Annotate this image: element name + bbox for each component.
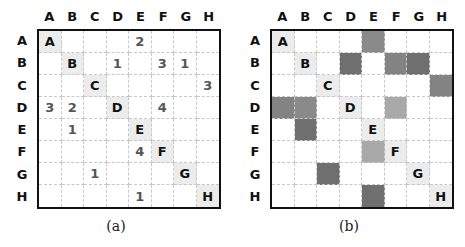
- matrix-cell: [174, 75, 197, 97]
- matrix-cell: [174, 31, 197, 53]
- caption-a: (a): [0, 218, 232, 234]
- panel-b: ABCDEFGH ABCDEFGH ABCDEFGH (b): [233, 0, 465, 247]
- panel-a: ABCDEFGH ABCDEFGH A2B131C332D41E4F1G1H (…: [0, 0, 232, 247]
- matrix-cell: [129, 163, 152, 185]
- matrix-cell: [174, 141, 197, 163]
- matrix-cell: H: [430, 185, 453, 207]
- matrix-cell: A: [39, 31, 62, 53]
- matrix-cell: [407, 31, 430, 53]
- matrix-cell: H: [197, 185, 220, 207]
- matrix-cell: [197, 31, 220, 53]
- matrix-grid-a: A2B131C332D41E4F1G1H: [37, 29, 221, 209]
- matrix-cell: [430, 75, 453, 97]
- row-label: C: [245, 75, 265, 98]
- matrix-cell: [197, 53, 220, 75]
- column-label: F: [385, 8, 408, 26]
- matrix-cell: [430, 97, 453, 119]
- matrix-cell: [174, 119, 197, 141]
- matrix-cell: [272, 185, 295, 207]
- matrix-cell: [272, 163, 295, 185]
- column-label: E: [129, 8, 152, 26]
- matrix-cell: E: [362, 119, 385, 141]
- matrix-cell: [407, 119, 430, 141]
- matrix-cell: [362, 97, 385, 119]
- matrix-cell: [107, 185, 130, 207]
- matrix-cell: [174, 97, 197, 119]
- column-label: B: [61, 8, 84, 26]
- matrix-cell: 1: [84, 163, 107, 185]
- matrix-cell: [152, 75, 175, 97]
- column-label: G: [175, 8, 198, 26]
- matrix-cell: [39, 163, 62, 185]
- matrix-cell: [62, 31, 85, 53]
- column-label: A: [38, 8, 61, 26]
- matrix-cell: [295, 163, 318, 185]
- matrix-cell: [39, 75, 62, 97]
- column-label: D: [106, 8, 129, 26]
- matrix-cell: [317, 185, 340, 207]
- column-label: G: [408, 8, 431, 26]
- matrix-cell: [39, 185, 62, 207]
- matrix-cell: [84, 185, 107, 207]
- matrix-cell: F: [152, 141, 175, 163]
- matrix-cell: [430, 53, 453, 75]
- matrix-cell: 3: [39, 97, 62, 119]
- matrix-cell: [340, 53, 363, 75]
- matrix-cell: [362, 163, 385, 185]
- matrix-cell: [407, 75, 430, 97]
- column-label: D: [339, 8, 362, 26]
- matrix-cell: [197, 119, 220, 141]
- matrix-cell: 3: [152, 53, 175, 75]
- matrix-cell: [295, 141, 318, 163]
- row-label: E: [12, 119, 32, 142]
- matrix-cell: 2: [62, 97, 85, 119]
- matrix-cell: [152, 163, 175, 185]
- matrix-cell: [295, 119, 318, 141]
- matrix-cell: [39, 119, 62, 141]
- matrix-cell: [362, 141, 385, 163]
- column-label: B: [294, 8, 317, 26]
- column-label: F: [152, 8, 175, 26]
- matrix-cell: [317, 119, 340, 141]
- matrix-grid-b: ABCDEFGH: [270, 29, 454, 209]
- matrix-cell: [62, 75, 85, 97]
- matrix-cell: [430, 119, 453, 141]
- matrix-cell: [174, 185, 197, 207]
- matrix-cell: [362, 31, 385, 53]
- matrix-cell: [385, 31, 408, 53]
- matrix-cell: [385, 53, 408, 75]
- matrix-cell: [84, 97, 107, 119]
- matrix-cell: [385, 75, 408, 97]
- row-label: G: [245, 164, 265, 187]
- matrix-cell: [107, 31, 130, 53]
- matrix-cell: F: [385, 141, 408, 163]
- matrix-cell: [362, 53, 385, 75]
- matrix-cell: [272, 53, 295, 75]
- row-label: B: [245, 52, 265, 75]
- matrix-cell: [362, 185, 385, 207]
- matrix-cell: [197, 141, 220, 163]
- row-label: H: [245, 186, 265, 209]
- matrix-cell: [407, 53, 430, 75]
- row-label: A: [12, 30, 32, 53]
- matrix-cell: [39, 53, 62, 75]
- matrix-cell: [385, 97, 408, 119]
- matrix-cell: [295, 75, 318, 97]
- row-label: F: [245, 141, 265, 164]
- caption-b: (b): [233, 218, 465, 234]
- matrix-cell: 3: [197, 75, 220, 97]
- row-label: G: [12, 164, 32, 187]
- matrix-cell: [62, 163, 85, 185]
- matrix-cell: [430, 163, 453, 185]
- matrix-cell: [84, 141, 107, 163]
- matrix-cell: [362, 75, 385, 97]
- matrix-cell: [430, 141, 453, 163]
- row-label: E: [245, 119, 265, 142]
- row-label: D: [245, 97, 265, 120]
- matrix-cell: [340, 31, 363, 53]
- column-label: E: [362, 8, 385, 26]
- matrix-cell: [317, 31, 340, 53]
- matrix-cell: [197, 163, 220, 185]
- matrix-cell: G: [174, 163, 197, 185]
- matrix-cell: [407, 97, 430, 119]
